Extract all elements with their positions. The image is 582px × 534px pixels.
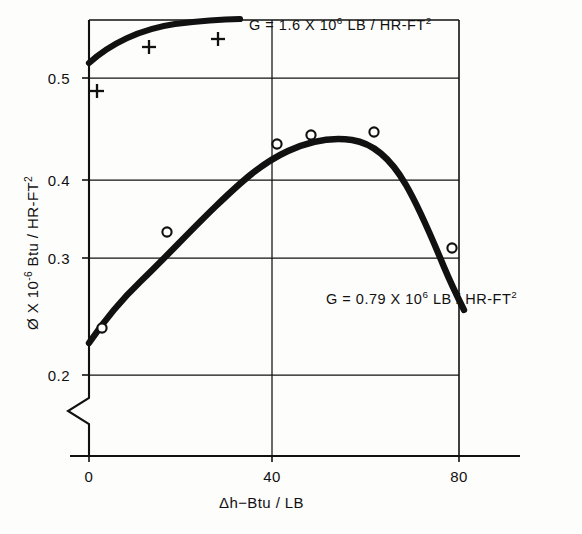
upper-label-coeff: 1.6 (279, 17, 301, 33)
y-axis-title-per: HR-FT (24, 182, 41, 229)
y-axis-break-zigzag (68, 385, 89, 437)
y-axis-title-symbol: Ø (24, 318, 41, 330)
y-axis-title-per-exponent: 2 (23, 176, 34, 182)
series-upper-markers (90, 32, 225, 98)
lower-label-times: X (391, 291, 401, 307)
y-axis-title-exponent: -6 (23, 271, 34, 281)
y-tick-label-0.5: 0.5 (24, 70, 70, 87)
series-lower-curve (89, 139, 464, 343)
x-axis-title: Δh−Btu / LB (219, 494, 304, 511)
data-point-plus (90, 84, 104, 98)
data-point-circle (97, 323, 106, 332)
lower-series-label: G = 0.79 X 106 LB / HR-FT2 (326, 291, 517, 307)
x-tick-label-0: 0 (64, 468, 114, 485)
y-tick-label-0.2: 0.2 (24, 367, 70, 384)
upper-label-exponent: 6 (337, 15, 343, 26)
y-axis-title-unit: Btu (24, 243, 41, 267)
lower-label-slash: / (456, 291, 461, 307)
y-axis-title-slash: / (24, 234, 41, 239)
upper-label-g: G = (249, 17, 274, 33)
lower-label-base: 10 (405, 291, 422, 307)
data-point-circle (162, 227, 171, 236)
data-point-circle (369, 127, 378, 136)
figure-canvas: 0.5 0.4 0.3 0.2 0 40 80 Δh−Btu / LB Ø X … (0, 0, 582, 534)
lower-label-g: G = (326, 291, 351, 307)
x-tick-label-80: 80 (434, 468, 484, 485)
y-axis-title-times: X (24, 303, 41, 313)
lower-label-per-exponent: 2 (511, 289, 517, 300)
data-point-circle (272, 139, 281, 148)
upper-label-per: HR-FT (380, 17, 426, 33)
upper-label-base: 10 (320, 17, 337, 33)
data-point-plus (211, 32, 225, 46)
lower-label-exponent: 6 (422, 289, 428, 300)
lower-label-per: HR-FT (465, 291, 511, 307)
x-axis-title-slash: / (276, 494, 281, 511)
data-point-circle (306, 130, 315, 139)
upper-label-slash: / (371, 17, 376, 33)
lower-label-coeff: 0.79 (356, 291, 386, 307)
lower-label-unit: LB (433, 291, 452, 307)
x-tick-label-40: 40 (247, 468, 297, 485)
y-axis-title-base: 10 (24, 281, 41, 299)
y-axis-title: Ø X 10-6 Btu / HR-FT2 (24, 176, 41, 330)
data-point-plus (142, 40, 156, 54)
plot-frame (68, 20, 520, 456)
x-axis-title-delta-h: Δh−Btu (219, 494, 271, 511)
gridlines-horizontal (89, 78, 459, 375)
upper-label-per-exponent: 2 (426, 15, 432, 26)
upper-label-unit: LB (347, 17, 366, 33)
chart-plot-area (0, 0, 582, 534)
upper-label-times: X (305, 17, 315, 33)
data-point-circle (447, 243, 456, 252)
upper-series-label: G = 1.6 X 106 LB / HR-FT2 (249, 17, 432, 33)
x-axis-title-unit: LB (285, 494, 304, 511)
